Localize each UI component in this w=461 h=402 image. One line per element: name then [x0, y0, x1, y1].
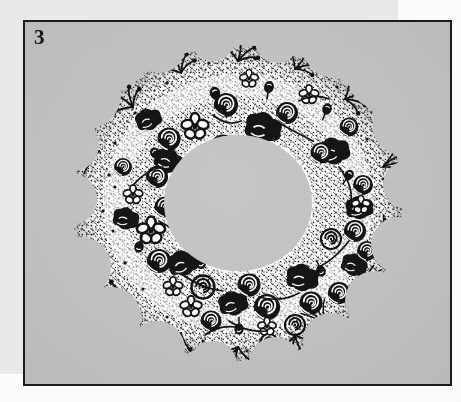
- figure-plate: 3: [23, 20, 452, 386]
- scanned-page: 3: [0, 0, 461, 402]
- floral-wreath-illustration: [63, 35, 413, 371]
- figure-number-label: 3: [34, 27, 45, 48]
